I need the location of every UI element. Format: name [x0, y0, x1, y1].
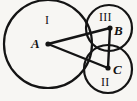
segment-B-C: [108, 28, 110, 68]
circles-group: [4, 0, 132, 93]
vertex-dot-A: [45, 41, 50, 46]
vertex-dot-C: [105, 65, 110, 70]
segment-A-B: [48, 28, 110, 44]
point-label-a: A: [31, 37, 40, 50]
geometry-figure: A B C I II III: [0, 0, 137, 101]
vertex-dot-B: [107, 25, 112, 30]
figure-canvas: [0, 0, 137, 101]
region-label-i: I: [45, 14, 49, 26]
region-label-iii: III: [99, 11, 112, 23]
point-label-b: B: [114, 24, 123, 37]
region-label-ii: II: [101, 76, 110, 88]
triangle-segments-group: [48, 28, 110, 68]
point-label-c: C: [113, 63, 122, 76]
